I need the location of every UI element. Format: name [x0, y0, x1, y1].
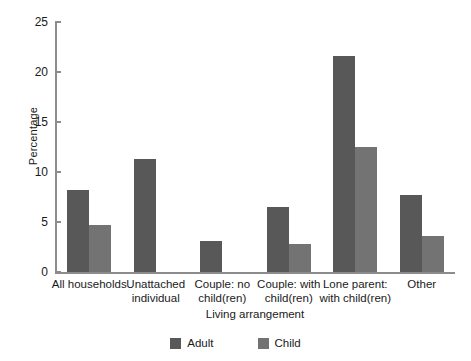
x-axis-title: Living arrangement [55, 308, 455, 320]
bar-adult[interactable] [200, 241, 222, 272]
plot-area [56, 22, 455, 272]
bar-group [134, 22, 178, 272]
bar-child[interactable] [289, 244, 311, 272]
bar-adult[interactable] [333, 56, 355, 272]
legend-swatch-icon [258, 338, 269, 349]
x-axis-line [55, 272, 455, 274]
bar-group [67, 22, 111, 272]
legend-swatch-icon [170, 338, 181, 349]
y-axis-title: Percentage [22, 0, 44, 272]
y-axis-tick-label: 15 [18, 115, 48, 129]
y-axis-tick-label: 20 [18, 65, 48, 79]
bar-chart: Percentage 0510152025 All householdsUnat… [0, 0, 471, 361]
bar-adult[interactable] [400, 195, 422, 272]
bar-child[interactable] [89, 225, 111, 272]
bar-group [400, 22, 444, 272]
bar-adult[interactable] [267, 207, 289, 272]
bar-adult[interactable] [134, 159, 156, 272]
chart-legend: AdultChild [0, 337, 471, 349]
bar-child[interactable] [422, 236, 444, 272]
bar-adult[interactable] [67, 190, 89, 272]
legend-label: Child [275, 337, 301, 349]
category-label-line: Other [381, 277, 464, 291]
legend-label: Adult [187, 337, 213, 349]
bar-group [267, 22, 311, 272]
legend-item-adult[interactable]: Adult [170, 337, 213, 349]
x-axis-category-label: Other [381, 277, 464, 291]
y-axis-tick-label: 10 [18, 165, 48, 179]
bar-child[interactable] [355, 147, 377, 272]
bar-group [200, 22, 244, 272]
y-axis-tick-label: 5 [18, 215, 48, 229]
category-label-line: with child(ren) [314, 291, 397, 305]
y-axis-tick-label: 25 [18, 15, 48, 29]
y-axis-tick-label: 0 [18, 265, 48, 279]
legend-item-child[interactable]: Child [258, 337, 301, 349]
bar-group [333, 22, 377, 272]
